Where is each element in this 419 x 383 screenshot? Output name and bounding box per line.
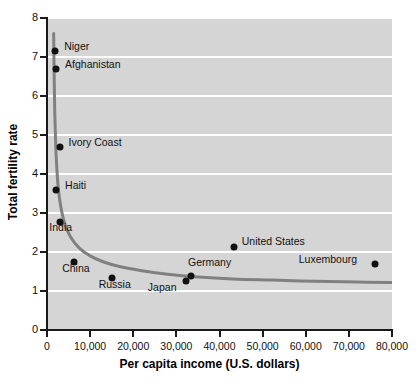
data-point-label: Afghanistan xyxy=(65,59,120,70)
x-axis-tick-label: 70,000 xyxy=(333,340,365,352)
x-axis-tick xyxy=(391,330,393,337)
y-axis-tick xyxy=(40,56,47,58)
x-axis-tick-label: 20,000 xyxy=(117,340,149,352)
data-point[interactable] xyxy=(56,144,63,151)
y-axis-tick xyxy=(40,17,47,19)
x-axis-tick-label: 50,000 xyxy=(247,340,279,352)
y-axis-tick-label: 0 xyxy=(8,324,38,335)
x-axis-tick-label: 40,000 xyxy=(203,340,235,352)
x-axis-tick-label: 80,000 xyxy=(376,340,408,352)
data-point-label: Luxembourg xyxy=(299,254,357,265)
y-axis-tick xyxy=(40,95,47,97)
data-point[interactable] xyxy=(188,273,195,280)
x-axis-tick xyxy=(305,330,307,337)
y-axis-tick-label: 7 xyxy=(8,51,38,62)
y-axis-tick xyxy=(40,173,47,175)
data-point[interactable] xyxy=(230,244,237,251)
plot-area: NigerAfghanistanIvory CoastHaitiIndiaChi… xyxy=(47,18,392,330)
x-axis-title: Per capita income (U.S. dollars) xyxy=(0,357,419,371)
x-axis-tick-label: 10,000 xyxy=(74,340,106,352)
data-point[interactable] xyxy=(371,261,378,268)
x-axis-tick xyxy=(132,330,134,337)
data-point-label: India xyxy=(49,222,72,233)
data-point[interactable] xyxy=(53,65,60,72)
x-axis-tick xyxy=(175,330,177,337)
y-axis-tick-label: 8 xyxy=(8,12,38,23)
x-axis-tick xyxy=(348,330,350,337)
data-point-label: China xyxy=(62,263,89,274)
data-point-label: Japan xyxy=(148,282,177,293)
y-axis-tick xyxy=(40,134,47,136)
fertility-income-scatter-chart: NigerAfghanistanIvory CoastHaitiIndiaChi… xyxy=(0,0,419,383)
data-point-label: Haiti xyxy=(65,180,86,191)
y-axis-tick xyxy=(40,212,47,214)
data-point[interactable] xyxy=(53,186,60,193)
y-axis-tick-label: 1 xyxy=(8,285,38,296)
data-point-label: Russia xyxy=(99,279,131,290)
x-axis-tick-label: 0 xyxy=(44,340,50,352)
data-point-label: United States xyxy=(242,236,305,247)
x-axis-tick xyxy=(219,330,221,337)
x-axis-tick xyxy=(46,330,48,337)
y-axis-tick xyxy=(40,251,47,253)
x-axis-tick xyxy=(262,330,264,337)
x-axis-tick xyxy=(89,330,91,337)
y-axis-tick xyxy=(40,290,47,292)
trend-curve-path xyxy=(54,34,392,283)
data-point-label: Niger xyxy=(64,41,89,52)
y-axis-title: Total fertility rate xyxy=(6,82,20,262)
data-point-label: Germany xyxy=(188,257,231,268)
data-point-label: Ivory Coast xyxy=(69,137,122,148)
x-axis-tick-label: 30,000 xyxy=(160,340,192,352)
x-axis-tick-label: 60,000 xyxy=(290,340,322,352)
data-point[interactable] xyxy=(52,48,59,55)
